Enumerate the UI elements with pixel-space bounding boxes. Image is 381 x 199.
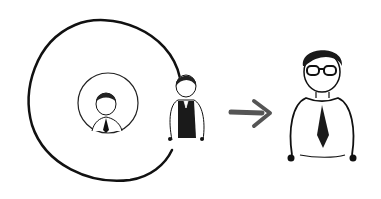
person-glasses: [288, 50, 357, 161]
person-inner: [92, 93, 122, 133]
arrow-right-icon: [231, 101, 270, 126]
illustration-canvas: [0, 0, 381, 199]
person-vest: [168, 75, 204, 141]
